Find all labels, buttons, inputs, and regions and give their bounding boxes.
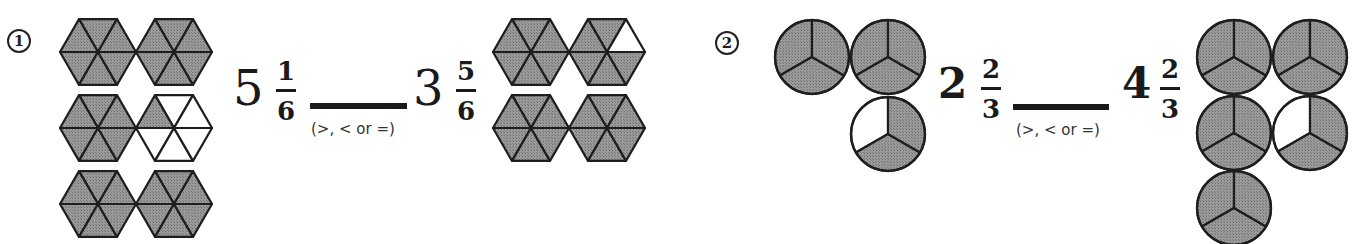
hexagon-model [60,95,136,161]
hexagon-model [493,95,569,161]
problem-2-right-denominator: 3 [1161,96,1179,122]
circle-model [1273,96,1347,170]
problem-1-right-fraction: 5 6 [456,58,476,124]
circle-model [1197,20,1271,94]
problem-1-number: 1 [14,34,24,49]
problem-1-left-denominator: 6 [277,98,295,124]
circle-model [851,97,925,171]
problem-1-right-hexagon-models [493,19,645,161]
fraction-bar [981,87,1001,90]
problem-2-right-circle-models [1197,20,1347,244]
hexagon-model [136,95,212,161]
problem-1-answer-hint: (>, < or =) [311,120,395,138]
hexagon-model [60,19,136,85]
problem-1-left-fraction: 1 6 [276,58,296,124]
problem-1-right-denominator: 6 [457,98,475,124]
circle-model [1273,20,1347,94]
hexagon-model [136,19,212,85]
hexagon-model [136,171,212,237]
problem-1-left-whole-number: 5 [233,64,264,112]
problem-2-left-numerator: 2 [982,56,1000,82]
problem-2-left-circle-models [775,20,925,171]
problem-2-answer-blank[interactable] [1013,104,1109,110]
circle-model [1197,171,1271,244]
problem-1-answer-blank[interactable] [310,103,407,109]
fraction-bar [276,89,296,92]
problem-1-right-whole-number: 3 [413,64,444,112]
problem-2-left-denominator: 3 [982,96,1000,122]
hexagon-model [569,95,645,161]
problem-1-number-badge: 1 [7,29,31,53]
problem-2-answer-hint: (>, < or =) [1016,121,1100,139]
circle-model [1197,96,1271,170]
fraction-bar [1160,87,1180,90]
problem-2-number: 2 [722,36,732,51]
circle-model [851,20,925,94]
problem-1-left-numerator: 1 [277,58,295,84]
problem-2-right-numerator: 2 [1161,56,1179,82]
problem-2-number-badge: 2 [715,31,739,55]
problem-2-left-fraction: 2 3 [981,56,1001,122]
problem-1-right-numerator: 5 [457,58,475,84]
hexagon-model [493,19,569,85]
problem-2-right-whole-number: 4 [1122,63,1151,105]
problem-1-left-hexagon-models [60,19,212,237]
hexagon-model [60,171,136,237]
circle-model [775,20,849,94]
hexagon-model [569,19,645,85]
fraction-bar [456,89,476,92]
problem-2-left-whole-number: 2 [938,63,967,105]
problem-2-right-fraction: 2 3 [1160,56,1180,122]
fraction-models [0,0,1356,244]
